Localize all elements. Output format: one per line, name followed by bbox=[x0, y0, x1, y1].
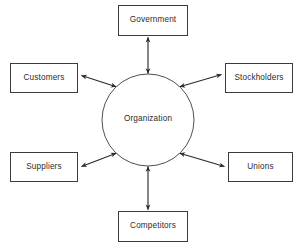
node-customers-label: Customers bbox=[24, 74, 65, 82]
organization-hub-label: Organization bbox=[98, 115, 198, 123]
node-suppliers[interactable]: Suppliers bbox=[10, 152, 78, 182]
node-stockholders[interactable]: Stockholders bbox=[225, 63, 293, 93]
link-customers-arrow bbox=[82, 76, 117, 87]
node-government-label: Government bbox=[130, 16, 177, 24]
node-customers[interactable]: Customers bbox=[10, 63, 78, 93]
node-competitors-label: Competitors bbox=[130, 222, 176, 230]
node-competitors[interactable]: Competitors bbox=[118, 211, 188, 242]
node-unions[interactable]: Unions bbox=[228, 152, 293, 182]
link-suppliers-arrow bbox=[82, 153, 117, 166]
diagram-canvas: Organization Government Stockholders Uni… bbox=[0, 0, 299, 246]
node-suppliers-label: Suppliers bbox=[26, 163, 61, 171]
node-unions-label: Unions bbox=[247, 163, 273, 171]
node-government[interactable]: Government bbox=[118, 5, 188, 36]
link-unions-arrow bbox=[180, 153, 225, 166]
link-stockholders-arrow bbox=[180, 75, 222, 87]
node-stockholders-label: Stockholders bbox=[234, 74, 283, 82]
